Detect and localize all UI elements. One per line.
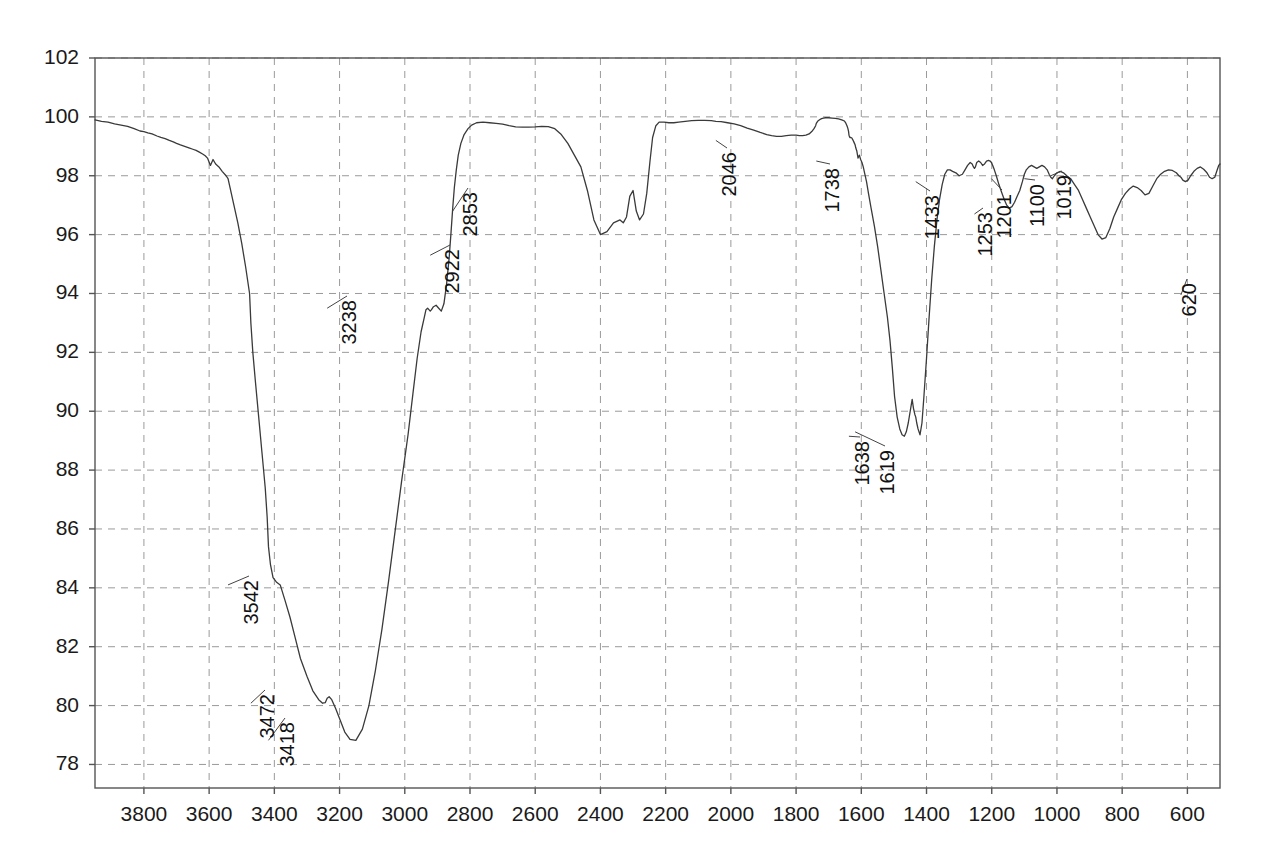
peak-label-2046: 2046 [718, 152, 741, 197]
y-tick-88: 88 [23, 457, 79, 481]
x-tick-1800: 1800 [761, 802, 831, 826]
y-tick-78: 78 [23, 751, 79, 775]
peak-leader-2046 [716, 140, 727, 148]
x-tick-1400: 1400 [892, 802, 962, 826]
peak-leader-1100 [1024, 179, 1035, 180]
peak-label-3418: 3418 [276, 722, 299, 767]
y-tick-102: 102 [23, 45, 79, 69]
peak-label-2922: 2922 [441, 249, 464, 294]
y-tick-92: 92 [23, 339, 79, 363]
x-tick-3400: 3400 [239, 802, 309, 826]
x-tick-2200: 2200 [631, 802, 701, 826]
peak-label-3238: 3238 [338, 300, 361, 345]
peak-label-1019: 1019 [1053, 175, 1076, 220]
x-tick-3200: 3200 [305, 802, 375, 826]
y-tick-84: 84 [23, 575, 79, 599]
x-tick-3000: 3000 [370, 802, 440, 826]
peak-leader-1738 [816, 161, 830, 164]
peak-label-1201: 1201 [993, 194, 1016, 239]
x-tick-2400: 2400 [565, 802, 635, 826]
y-tick-80: 80 [23, 693, 79, 717]
y-tick-96: 96 [23, 222, 79, 246]
y-tick-82: 82 [23, 634, 79, 658]
plot-frame [95, 58, 1220, 788]
peak-label-1100: 1100 [1026, 184, 1049, 227]
peak-label-1433: 1433 [921, 195, 944, 240]
peak-label-1619: 1619 [876, 450, 899, 495]
peak-leader-1638 [849, 436, 860, 437]
x-tick-2000: 2000 [696, 802, 766, 826]
y-tick-94: 94 [23, 280, 79, 304]
x-tick-2800: 2800 [435, 802, 505, 826]
peak-leader-1201 [991, 179, 1002, 190]
y-tick-100: 100 [23, 104, 79, 128]
x-tick-800: 800 [1087, 802, 1157, 826]
peak-label-620: 620 [1178, 283, 1201, 316]
peak-label-1738: 1738 [821, 168, 844, 213]
x-tick-1600: 1600 [826, 802, 896, 826]
x-tick-3800: 3800 [109, 802, 179, 826]
ftir-spectrum-chart: 7880828486889092949698100102 38003600340… [0, 0, 1277, 850]
peak-leader-1433 [916, 182, 930, 191]
gridlines [95, 58, 1220, 788]
y-tick-86: 86 [23, 516, 79, 540]
y-tick-90: 90 [23, 398, 79, 422]
peak-label-3542: 3542 [240, 580, 263, 625]
x-tick-1000: 1000 [1022, 802, 1092, 826]
spectrum-plot-area [0, 0, 1277, 850]
x-tick-600: 600 [1152, 802, 1222, 826]
peak-label-2853: 2853 [459, 192, 482, 237]
tick-marks [89, 58, 1187, 794]
y-tick-98: 98 [23, 163, 79, 187]
peak-label-1638: 1638 [851, 441, 874, 486]
x-tick-3600: 3600 [174, 802, 244, 826]
x-tick-2600: 2600 [500, 802, 570, 826]
x-tick-1200: 1200 [957, 802, 1027, 826]
